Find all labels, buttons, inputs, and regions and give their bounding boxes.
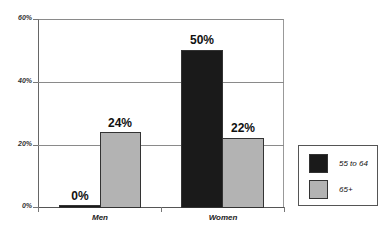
x-tick-mark: [38, 207, 39, 212]
legend-label-65-plus: 65+: [339, 185, 353, 194]
legend-label-55-64: 55 to 64: [339, 159, 368, 168]
y-tick-mark-40: [33, 82, 38, 83]
y-tick-label: 20%: [0, 140, 32, 147]
y-tick-label: 40%: [0, 77, 32, 84]
data-label-men-55-64: 0%: [55, 189, 105, 203]
x-tick-mark: [284, 207, 285, 212]
y-tick-label: 0%: [0, 202, 32, 209]
x-category-label-women: Women: [183, 213, 263, 222]
bar-men-55-64: [59, 205, 101, 208]
x-tick-mark: [161, 207, 162, 212]
data-label-men-65-plus: 24%: [95, 116, 145, 130]
legend: 55 to 64 65+: [298, 145, 378, 206]
y-tick-mark-60: [33, 19, 38, 20]
legend-swatch-55-64: [309, 154, 328, 173]
y-tick-mark-20: [33, 145, 38, 146]
gridline-40: [38, 82, 284, 83]
data-label-women-65-plus: 22%: [218, 121, 268, 135]
data-label-women-55-64: 50%: [177, 33, 227, 47]
y-tick-label: 60%: [0, 14, 32, 21]
legend-swatch-65-plus: [309, 180, 328, 199]
bar-men-65-plus: [100, 132, 141, 208]
bar-women-55-64: [181, 50, 223, 208]
bar-women-65-plus: [222, 138, 264, 208]
x-category-label-men: Men: [60, 213, 140, 222]
